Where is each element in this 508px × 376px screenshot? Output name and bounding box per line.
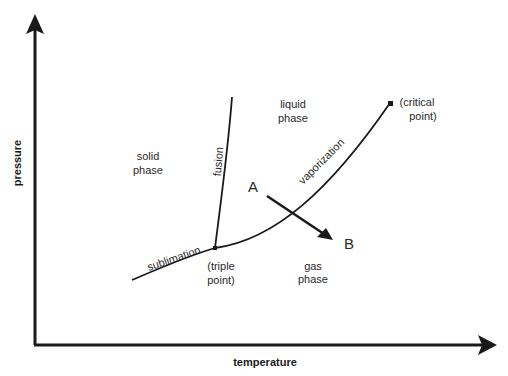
liquid-phase-line-1: liquid [280, 98, 306, 110]
solid-phase-line-1: solid [137, 150, 160, 162]
point-b-label: B [344, 235, 354, 252]
gas-phase-label: gas phase [298, 260, 328, 285]
process-arrow-a-to-b [267, 196, 333, 240]
gas-phase-line-1: gas [304, 260, 322, 272]
process-arrow-line [267, 196, 324, 234]
point-a-label: A [248, 178, 258, 195]
solid-phase-label: solid phase [133, 150, 163, 176]
y-axis-title: pressure [11, 140, 23, 186]
vaporization-label: vaporization [296, 136, 346, 186]
triple-point-line-2: point) [207, 274, 235, 286]
sublimation-label: sublimation [145, 243, 202, 272]
solid-phase-line-2: phase [133, 164, 163, 176]
triple-point-marker [213, 246, 217, 250]
triple-point-line-1: (triple [207, 260, 235, 272]
phase-diagram: temperature pressure fusion sublimation … [0, 0, 508, 376]
critical-point-line-2: point) [409, 110, 437, 122]
gas-phase-line-2: phase [298, 273, 328, 285]
x-axis [34, 335, 497, 355]
x-axis-title: temperature [233, 356, 297, 368]
y-axis [26, 14, 44, 345]
liquid-phase-line-2: phase [278, 112, 308, 124]
critical-point-label: (critical point) [400, 96, 437, 122]
fusion-label: fusion [211, 147, 226, 177]
critical-point-marker [388, 101, 393, 106]
critical-point-line-1: (critical [400, 96, 435, 108]
liquid-phase-label: liquid phase [278, 98, 308, 124]
triple-point-label: (triple point) [207, 260, 235, 286]
